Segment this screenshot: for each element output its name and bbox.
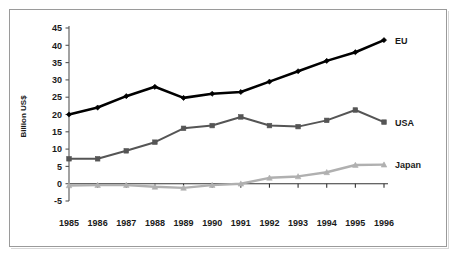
y-tick-label: 0 [57,179,62,189]
y-tick-label: 40 [52,41,62,51]
y-tick-label: 10 [52,144,62,154]
x-tick-label: 1988 [145,218,165,228]
line-chart: Billion US$ -5051015202530354045 1985198… [10,10,446,246]
data-point-marker [324,118,329,123]
data-point-marker [382,120,387,125]
series-group [66,38,387,191]
series-usa [67,108,387,161]
y-tick-label: -5 [54,196,62,206]
x-axis-tick-labels: 1985198619871988198919901991199219931994… [59,218,394,228]
data-point-marker [67,156,72,161]
y-tick-label: 20 [52,110,62,120]
data-point-marker [95,156,100,161]
y-tick-label: 30 [52,75,62,85]
x-tick-label: 1995 [345,218,365,228]
data-point-marker [124,149,129,154]
series-line [69,40,384,114]
series-line [69,110,384,159]
screenshot-root: Billion US$ -5051015202530354045 1985198… [0,0,458,261]
x-tick-label: 1990 [202,218,222,228]
data-point-marker [239,115,244,120]
x-tick-label: 1993 [288,218,308,228]
x-tick-label: 1987 [116,218,136,228]
x-tick-label: 1992 [259,218,279,228]
x-tick-label: 1994 [317,218,337,228]
x-tick-label: 1991 [231,218,251,228]
data-point-marker [210,91,215,96]
x-tick-label: 1989 [174,218,194,228]
data-point-marker [153,140,158,145]
x-tick-label: 1985 [59,218,79,228]
y-axis-title-group: Billion US$ [19,95,28,138]
series-japan [66,162,387,190]
x-tick-label: 1996 [374,218,394,228]
series-label-japan: Japan [395,160,421,170]
series-eu [66,38,386,118]
x-tick-label: 1986 [88,218,108,228]
y-axis-tick-labels: -5051015202530354045 [52,23,62,206]
y-tick-label: 45 [52,23,62,33]
y-tick-label: 25 [52,92,62,102]
data-point-marker [210,123,215,128]
y-tick-label: 5 [57,162,62,172]
data-point-marker [296,124,301,129]
data-point-marker [267,123,272,128]
series-line [69,165,384,188]
y-tick-label: 35 [52,58,62,68]
series-labels-group: EUUSAJapan [395,36,421,171]
series-label-usa: USA [395,118,415,128]
data-point-marker [181,126,186,131]
figure-frame: Billion US$ -5051015202530354045 1985198… [9,9,447,247]
y-tick-label: 15 [52,127,62,137]
y-axis-title: Billion US$ [19,95,28,138]
data-point-marker [353,108,358,113]
series-label-eu: EU [395,36,408,46]
data-point-marker [66,112,71,117]
